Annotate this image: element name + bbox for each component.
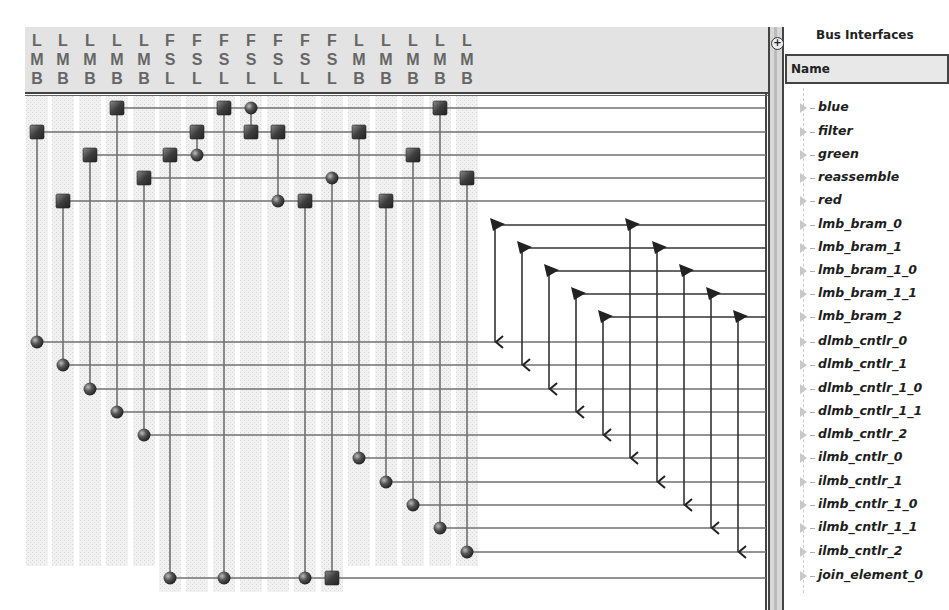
bus-slave-connector-icon[interactable]: [191, 149, 204, 162]
bus-interface-item[interactable]: lmb_bram_1: [800, 238, 949, 260]
bus-slave-connector-icon[interactable]: [299, 572, 312, 585]
bus-slave-connector-icon[interactable]: [245, 102, 258, 115]
expand-arrow-icon[interactable]: [800, 173, 807, 183]
name-column-header[interactable]: Name: [785, 54, 949, 84]
flag-connector-icon[interactable]: [598, 310, 613, 323]
bus-column-lmb[interactable]: L M B: [404, 31, 422, 88]
expand-arrow-icon[interactable]: [800, 430, 807, 440]
bus-column-fsl[interactable]: F S L: [242, 31, 260, 88]
bus-column-lmb[interactable]: L M B: [431, 31, 449, 88]
bus-interface-item[interactable]: lmb_bram_2: [800, 307, 949, 329]
bus-slave-connector-icon[interactable]: [164, 572, 177, 585]
bus-slave-connector-icon[interactable]: [31, 336, 44, 349]
bus-master-connector-icon[interactable]: [244, 125, 258, 139]
expand-arrow-icon[interactable]: [800, 500, 807, 510]
bus-interface-item[interactable]: ilmb_cntlr_0: [800, 448, 949, 470]
expand-arrow-icon[interactable]: [800, 103, 807, 113]
bus-slave-connector-icon[interactable]: [84, 383, 97, 396]
flag-connector-icon[interactable]: [652, 241, 667, 254]
panel-splitter[interactable]: [768, 27, 784, 610]
bus-master-connector-icon[interactable]: [271, 125, 285, 139]
expand-arrow-icon[interactable]: [800, 547, 807, 557]
bus-master-connector-icon[interactable]: [190, 125, 204, 139]
bus-master-connector-icon[interactable]: [217, 101, 231, 115]
flag-connector-icon[interactable]: [733, 310, 748, 323]
expand-arrow-icon[interactable]: [800, 384, 807, 394]
bus-interface-item[interactable]: ilmb_cntlr_1: [800, 472, 949, 494]
bus-master-connector-icon[interactable]: [83, 148, 97, 162]
expand-arrow-icon[interactable]: [800, 220, 807, 230]
bus-column-fsl[interactable]: F S L: [188, 31, 206, 88]
expand-arrow-icon[interactable]: [800, 337, 807, 347]
bus-interface-item[interactable]: ilmb_cntlr_1_0: [800, 495, 949, 517]
bus-master-connector-icon[interactable]: [433, 101, 447, 115]
expand-arrow-icon[interactable]: [800, 477, 807, 487]
bus-interface-item[interactable]: dlmb_cntlr_1: [800, 355, 949, 377]
bus-slave-connector-icon[interactable]: [57, 359, 70, 372]
bus-column-lmb[interactable]: L M B: [135, 31, 153, 88]
bus-interface-item[interactable]: lmb_bram_0: [800, 215, 949, 237]
bus-slave-connector-icon[interactable]: [461, 546, 474, 559]
bus-column-lmb[interactable]: L M B: [377, 31, 395, 88]
bus-slave-connector-icon[interactable]: [434, 522, 447, 535]
expand-arrow-icon[interactable]: [800, 150, 807, 160]
bus-interface-item[interactable]: reassemble: [800, 168, 949, 190]
bus-interface-item[interactable]: lmb_bram_1_0: [800, 261, 949, 283]
flag-connector-icon[interactable]: [625, 218, 640, 231]
expand-arrow-icon[interactable]: [800, 523, 807, 533]
bus-column-lmb[interactable]: L M B: [28, 31, 46, 88]
expand-arrow-icon[interactable]: [800, 571, 807, 581]
bus-slave-connector-icon[interactable]: [326, 172, 339, 185]
bus-slave-connector-icon[interactable]: [380, 476, 393, 489]
bus-interface-item[interactable]: dlmb_cntlr_2: [800, 425, 949, 447]
bus-slave-connector-icon[interactable]: [111, 406, 124, 419]
flag-connector-icon[interactable]: [706, 287, 721, 300]
bus-master-connector-icon[interactable]: [352, 125, 366, 139]
bus-master-connector-icon[interactable]: [110, 101, 124, 115]
expand-panel-button[interactable]: +: [770, 29, 784, 49]
bus-master-connector-icon[interactable]: [325, 571, 339, 585]
flag-connector-icon[interactable]: [571, 287, 586, 300]
bus-slave-connector-icon[interactable]: [218, 572, 231, 585]
expand-arrow-icon[interactable]: [800, 289, 807, 299]
bus-master-connector-icon[interactable]: [298, 194, 312, 208]
bus-interface-item[interactable]: blue: [800, 98, 949, 120]
bus-column-fsl[interactable]: F S L: [323, 31, 341, 88]
bus-column-fsl[interactable]: F S L: [215, 31, 233, 88]
bus-slave-connector-icon[interactable]: [138, 429, 151, 442]
bus-interface-item[interactable]: red: [800, 191, 949, 213]
expand-arrow-icon[interactable]: [800, 243, 807, 253]
expand-arrow-icon[interactable]: [800, 196, 807, 206]
bus-slave-connector-icon[interactable]: [272, 195, 285, 208]
bus-interface-item[interactable]: filter: [800, 122, 949, 144]
flag-connector-icon[interactable]: [490, 218, 505, 231]
flag-connector-icon[interactable]: [679, 264, 694, 277]
bus-interface-item[interactable]: lmb_bram_1_1: [800, 284, 949, 306]
bus-column-lmb[interactable]: L M B: [108, 31, 126, 88]
bus-column-lmb[interactable]: L M B: [458, 31, 476, 88]
bus-slave-connector-icon[interactable]: [407, 499, 420, 512]
bus-column-lmb[interactable]: L M B: [54, 31, 72, 88]
flag-connector-icon[interactable]: [517, 241, 532, 254]
bus-interface-item[interactable]: dlmb_cntlr_1_1: [800, 402, 949, 424]
bus-interface-item[interactable]: dlmb_cntlr_1_0: [800, 379, 949, 401]
expand-arrow-icon[interactable]: [800, 407, 807, 417]
bus-master-connector-icon[interactable]: [137, 171, 151, 185]
expand-arrow-icon[interactable]: [800, 127, 807, 137]
expand-arrow-icon[interactable]: [800, 360, 807, 370]
expand-arrow-icon[interactable]: [800, 266, 807, 276]
bus-column-fsl[interactable]: F S L: [296, 31, 314, 88]
expand-arrow-icon[interactable]: [800, 453, 807, 463]
flag-connector-icon[interactable]: [544, 264, 559, 277]
bus-master-connector-icon[interactable]: [163, 148, 177, 162]
bus-master-connector-icon[interactable]: [379, 194, 393, 208]
bus-master-connector-icon[interactable]: [460, 171, 474, 185]
expand-arrow-icon[interactable]: [800, 312, 807, 322]
bus-master-connector-icon[interactable]: [30, 125, 44, 139]
bus-column-lmb[interactable]: L M B: [350, 31, 368, 88]
bus-interface-item[interactable]: join_element_0: [800, 566, 949, 588]
bus-interface-item[interactable]: dlmb_cntlr_0: [800, 332, 949, 354]
bus-slave-connector-icon[interactable]: [353, 452, 366, 465]
bus-column-lmb[interactable]: L M B: [81, 31, 99, 88]
bus-interface-item[interactable]: ilmb_cntlr_1_1: [800, 518, 949, 540]
